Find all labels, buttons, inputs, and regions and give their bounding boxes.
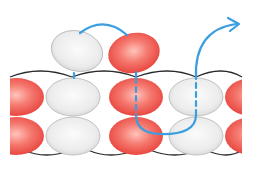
bead-top-red xyxy=(104,28,163,78)
beadwork-diagram xyxy=(0,0,267,171)
bead-grid xyxy=(0,78,267,155)
bead-red xyxy=(0,117,44,155)
bead-red xyxy=(225,78,267,116)
bead-red xyxy=(109,117,163,155)
bead-red xyxy=(225,117,267,155)
bead-white xyxy=(46,78,100,116)
bead-top-white xyxy=(47,25,108,77)
bead-red xyxy=(0,78,44,116)
bead-white xyxy=(169,117,223,155)
bead-white xyxy=(46,117,100,155)
